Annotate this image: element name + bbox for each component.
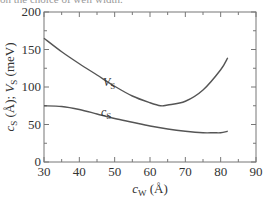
series-vs-curve	[44, 38, 228, 106]
x-tick-label: 70	[179, 164, 192, 179]
series-label-cs: cS	[101, 105, 111, 121]
plot-frame	[44, 12, 256, 162]
x-tick-label: 90	[250, 164, 263, 179]
y-tick-label: 0	[35, 154, 42, 169]
y-tick-label: 50	[28, 117, 41, 132]
x-tick-label: 80	[214, 164, 227, 179]
series-label-vs: VS	[103, 75, 115, 91]
axis-ticks	[44, 12, 256, 162]
x-tick-label: 40	[73, 164, 86, 179]
series-cs-curve	[44, 106, 228, 133]
y-tick-label: 100	[22, 79, 42, 94]
line-chart: 30405060708090050100150200 VS cS cW (Å) …	[0, 0, 268, 199]
x-tick-label: 60	[144, 164, 157, 179]
x-tick-label: 50	[108, 164, 121, 179]
y-tick-label: 150	[22, 42, 42, 57]
y-tick-label: 200	[22, 4, 42, 19]
y-axis-label: cS (Å); VS (meV)	[2, 42, 19, 131]
tick-labels: 30405060708090050100150200	[22, 4, 263, 179]
x-axis-label: cW (Å)	[132, 181, 168, 198]
